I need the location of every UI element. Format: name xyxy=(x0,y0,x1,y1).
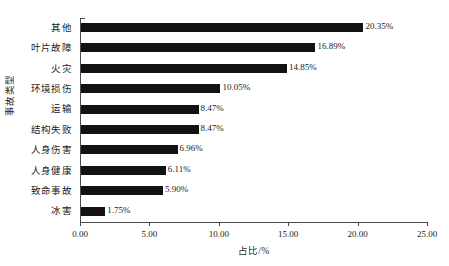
y-axis-tick-label: 人身伤害 xyxy=(31,144,72,157)
bar-value-label: 1.75% xyxy=(105,204,130,217)
y-axis-tick-label: 叶片故障 xyxy=(31,42,72,55)
bar-row: 1.75% xyxy=(81,202,428,222)
bar-row: 14.85% xyxy=(81,59,428,79)
x-axis-tick xyxy=(358,222,359,226)
x-axis-tick-label: 0.00 xyxy=(58,228,102,240)
bar-value-label: 5.90% xyxy=(163,183,188,196)
x-axis-line xyxy=(80,222,427,223)
x-axis-tick xyxy=(149,222,150,226)
y-axis-tick-label: 环境损伤 xyxy=(31,83,72,96)
y-axis-tick-label: 其他 xyxy=(51,22,72,35)
x-axis-title: 占比/% xyxy=(80,243,427,257)
y-axis-tick-label: 致命事故 xyxy=(31,185,72,198)
bar-row: 6.11% xyxy=(81,161,428,181)
x-axis-tick-label: 25.00 xyxy=(405,228,449,240)
bar-value-label: 6.96% xyxy=(178,142,203,155)
bar xyxy=(81,105,199,114)
bar xyxy=(81,186,163,195)
x-axis-tick xyxy=(427,222,428,226)
bar xyxy=(81,64,287,73)
bar-row: 16.89% xyxy=(81,38,428,58)
y-axis-tick-label: 人身健康 xyxy=(31,165,72,178)
y-axis-tick-labels: 其他叶片故障火灾环境损伤运输结构失败人身伤害人身健康致命事故冰害 xyxy=(0,18,76,222)
x-axis-tick-label: 5.00 xyxy=(127,228,171,240)
bar xyxy=(81,207,105,216)
y-axis-tick-label: 运输 xyxy=(51,103,72,116)
bar-chart: 事故类型 其他叶片故障火灾环境损伤运输结构失败人身伤害人身健康致命事故冰害 20… xyxy=(0,0,449,266)
x-axis-tick xyxy=(288,222,289,226)
x-axis-tick xyxy=(80,222,81,226)
bar-row: 10.05% xyxy=(81,79,428,99)
bar xyxy=(81,84,220,93)
y-axis-tick-label: 结构失败 xyxy=(31,124,72,137)
y-axis-tick-label: 火灾 xyxy=(51,63,72,76)
x-axis-tick-label: 10.00 xyxy=(197,228,241,240)
y-axis-tick-label: 冰害 xyxy=(51,205,72,218)
bar-value-label: 8.47% xyxy=(199,122,224,135)
bar-row: 6.96% xyxy=(81,140,428,160)
plot-area: 20.35%16.89%14.85%10.05%8.47%8.47%6.96%6… xyxy=(80,18,427,222)
bar-row: 8.47% xyxy=(81,100,428,120)
bar-value-label: 8.47% xyxy=(199,102,224,115)
bar-value-label: 14.85% xyxy=(287,61,317,74)
bar-row: 20.35% xyxy=(81,18,428,38)
bar xyxy=(81,125,199,134)
bar-value-label: 16.89% xyxy=(315,40,345,53)
bar xyxy=(81,166,166,175)
bar xyxy=(81,145,178,154)
bar-value-label: 6.11% xyxy=(166,163,191,176)
bar-value-label: 10.05% xyxy=(220,81,250,94)
bar-row: 8.47% xyxy=(81,120,428,140)
x-axis-tick-label: 20.00 xyxy=(336,228,380,240)
bar xyxy=(81,43,315,52)
bar-row: 5.90% xyxy=(81,181,428,201)
x-axis-tick-label: 15.00 xyxy=(266,228,310,240)
bar xyxy=(81,23,363,32)
x-axis-tick xyxy=(219,222,220,226)
bar-value-label: 20.35% xyxy=(363,20,393,33)
